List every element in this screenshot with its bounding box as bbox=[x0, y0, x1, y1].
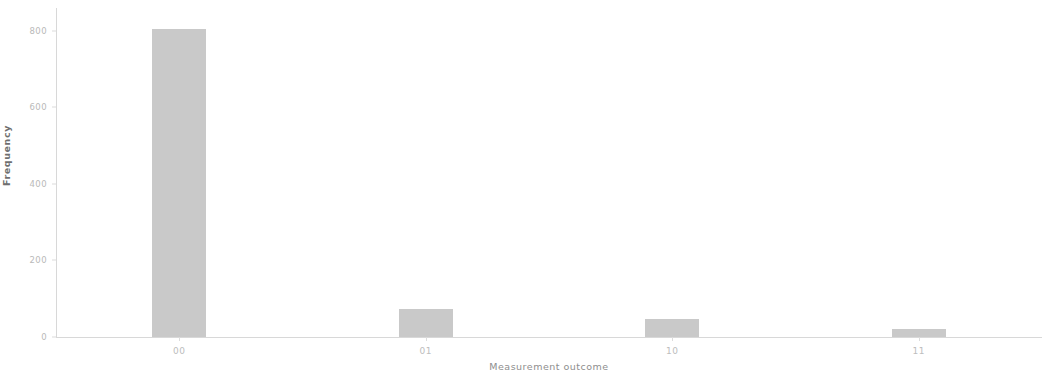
y-axis-tick-mark bbox=[52, 183, 56, 184]
y-axis-tick-label: 600 bbox=[30, 102, 47, 112]
y-axis-tick-mark bbox=[52, 107, 56, 108]
x-axis-tick-label: 11 bbox=[913, 346, 925, 356]
bar bbox=[645, 319, 699, 337]
x-axis-title: Measurement outcome bbox=[56, 361, 1042, 372]
bar bbox=[399, 309, 453, 337]
x-axis-tick-label: 01 bbox=[420, 346, 432, 356]
y-axis-title: Frequency bbox=[1, 106, 12, 206]
x-axis-tick-label: 00 bbox=[173, 346, 185, 356]
bar bbox=[152, 29, 206, 337]
x-axis-tick-label: 10 bbox=[666, 346, 678, 356]
y-axis-tick-mark bbox=[52, 30, 56, 31]
histogram-figure: 0200400600800 00011011 Frequency Measure… bbox=[0, 0, 1058, 374]
x-axis-spine bbox=[56, 337, 1042, 338]
bar-series bbox=[56, 8, 1042, 337]
y-axis-tick-mark bbox=[52, 337, 56, 338]
x-axis-tick-mark bbox=[672, 337, 673, 341]
y-axis-tick-label: 800 bbox=[30, 26, 47, 36]
y-axis-title-wrapper: Frequency bbox=[0, 0, 1, 374]
y-axis-tick-mark bbox=[52, 260, 56, 261]
y-axis-tick-label: 200 bbox=[30, 255, 47, 265]
x-axis-tick-mark bbox=[179, 337, 180, 341]
bar bbox=[892, 329, 946, 337]
y-axis-tick-label: 0 bbox=[41, 332, 47, 342]
x-axis-tick-mark bbox=[919, 337, 920, 341]
x-axis-tick-labels: 00011011 bbox=[0, 346, 1058, 362]
y-axis-tick-label: 400 bbox=[30, 179, 47, 189]
x-axis-tick-mark bbox=[426, 337, 427, 341]
